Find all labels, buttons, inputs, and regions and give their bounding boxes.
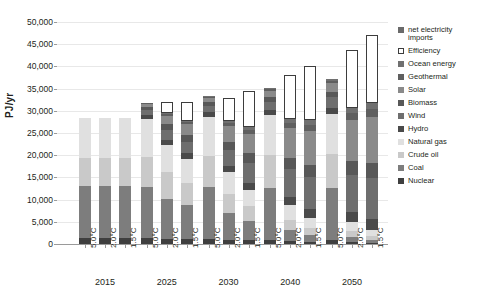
- bar-segment-biomass: [223, 142, 235, 150]
- bar-segment-solar: [366, 117, 378, 163]
- bar-segment-geothermal: [346, 113, 358, 120]
- y-axis-tick-label: 5,000: [3, 218, 53, 226]
- y-axis-tick: [54, 22, 57, 23]
- bar-2015-2-0C[interactable]: [99, 118, 111, 245]
- legend-item-coal[interactable]: Coal: [398, 164, 478, 172]
- y-axis-tick: [54, 155, 57, 156]
- bar-segment-wind: [284, 169, 296, 197]
- legend-item-crude-oil[interactable]: Crude oil: [398, 151, 478, 159]
- legend-item-label: Solar: [408, 86, 426, 94]
- x-axis-scenario-label: 2.0°C: [233, 227, 242, 248]
- legend-item-nuclear[interactable]: Nuclear: [398, 177, 478, 185]
- y-axis-tick: [54, 133, 57, 134]
- y-axis-tick: [54, 66, 57, 67]
- legend-item-label: Biomass: [408, 99, 437, 107]
- bar-2030-1-5C[interactable]: [243, 91, 255, 244]
- x-axis-scenario-label: 5.0°C: [89, 227, 98, 248]
- legend-item-hydro[interactable]: Hydro: [398, 125, 478, 133]
- x-axis-tick: [85, 244, 86, 248]
- y-axis-tick: [54, 89, 57, 90]
- y-axis-tick: [54, 177, 57, 178]
- bar-segment-wind: [264, 102, 276, 110]
- legend-item-efficiency[interactable]: Efficiency: [398, 47, 478, 55]
- bar-segment-wind: [366, 178, 378, 219]
- bar-segment-natural-gas: [119, 118, 131, 158]
- x-axis-scenario-label: 1.5°C: [376, 227, 385, 248]
- plot-area: 50,00045,00040,00035,00030,00025,00020,0…: [57, 22, 388, 244]
- legend-item-natural-gas[interactable]: Natural gas: [398, 138, 478, 146]
- chart-legend: net electricity importsEfficiencyOcean e…: [398, 26, 478, 190]
- x-axis-tick: [352, 244, 353, 248]
- legend-item-ocean-energy[interactable]: Ocean energy: [398, 60, 478, 68]
- bar-segment-efficiency: [223, 98, 235, 121]
- gridline: [57, 44, 388, 45]
- legend-swatch-nuclear-icon: [398, 178, 404, 184]
- bar-segment-solar: [326, 83, 338, 91]
- bar-segment-solar: [243, 134, 255, 154]
- bar-2050-5-0C[interactable]: [326, 79, 338, 244]
- legend-item-label: Natural gas: [408, 138, 447, 146]
- bar-segment-efficiency: [284, 75, 296, 119]
- y-axis-tick-label: 25,000: [3, 129, 53, 137]
- bar-2025-1-5C[interactable]: [181, 102, 193, 244]
- bar-segment-geothermal: [366, 109, 378, 117]
- bar-segment-natural-gas: [326, 114, 338, 154]
- legend-item-label: Ocean energy: [408, 60, 456, 68]
- y-axis-tick-label: 0: [3, 240, 53, 248]
- y-axis-tick: [54, 200, 57, 201]
- bar-segment-solar: [181, 124, 193, 135]
- legend-item-biomass[interactable]: Biomass: [398, 99, 478, 107]
- bar-2025-2-0C[interactable]: [161, 102, 173, 244]
- bar-segment-natural-gas: [161, 145, 173, 173]
- bar-2040-1-5C[interactable]: [304, 66, 316, 244]
- x-axis-scenario-label: 2.0°C: [294, 227, 303, 248]
- x-axis-scenario-label: 5.0°C: [336, 227, 345, 248]
- bar-segment-crude-oil: [161, 172, 173, 199]
- x-axis-scenario-label: 1.5°C: [314, 227, 323, 248]
- bar-2050-1-5C[interactable]: [366, 35, 378, 244]
- bar-segment-crude-oil: [181, 183, 193, 205]
- gridline: [57, 66, 388, 67]
- bar-2030-5-0C[interactable]: [203, 96, 215, 244]
- stacked-bar-chart: PJ/yr 50,00045,00040,00035,00030,00025,0…: [0, 0, 480, 297]
- bar-segment-wind: [304, 177, 316, 208]
- legend-item-net-electricity-imports[interactable]: net electricity imports: [398, 26, 478, 43]
- bar-2015-5-0C[interactable]: [79, 118, 91, 245]
- y-axis-tick: [54, 244, 57, 245]
- bar-segment-natural-gas: [243, 190, 255, 206]
- y-axis-tick-label: 15,000: [3, 173, 53, 181]
- bar-2050-2-0C[interactable]: [346, 50, 358, 244]
- x-axis-scenario-label: 5.0°C: [151, 227, 160, 248]
- legend-item-geothermal[interactable]: Geothermal: [398, 73, 478, 81]
- bar-2040-2-0C[interactable]: [284, 75, 296, 244]
- bar-segment-wind: [223, 150, 235, 166]
- bar-segment-biomass: [181, 135, 193, 142]
- bar-segment-crude-oil: [223, 194, 235, 213]
- x-axis-scenario-label: 2.0°C: [109, 227, 118, 248]
- y-axis-tick-label: 10,000: [3, 196, 53, 204]
- bar-segment-natural-gas: [284, 205, 296, 220]
- bar-segment-crude-oil: [264, 155, 276, 187]
- y-axis-tick-label: 50,000: [3, 18, 53, 26]
- bar-segment-wind: [181, 142, 193, 154]
- bar-2015-1-5C[interactable]: [119, 118, 131, 245]
- gridline: [57, 22, 388, 23]
- x-axis-tick: [372, 244, 373, 248]
- bar-2030-2-0C[interactable]: [223, 98, 235, 244]
- legend-swatch-solar-icon: [398, 87, 404, 93]
- x-axis-scenario-label: 2.0°C: [171, 227, 180, 248]
- x-axis-group-label-2050: 2050: [316, 277, 388, 287]
- x-axis-tick: [249, 244, 250, 248]
- bar-2040-5-0C[interactable]: [264, 88, 276, 244]
- bar-segment-natural-gas: [223, 172, 235, 194]
- legend-item-solar[interactable]: Solar: [398, 86, 478, 94]
- y-axis-tick-label: 35,000: [3, 85, 53, 93]
- bar-2025-5-0C[interactable]: [141, 103, 153, 244]
- bar-segment-wind: [346, 175, 358, 212]
- legend-item-label: Nuclear: [408, 177, 434, 185]
- y-axis-tick-label: 20,000: [3, 151, 53, 159]
- x-axis-tick: [270, 244, 271, 248]
- x-axis-tick: [332, 244, 333, 248]
- legend-item-wind[interactable]: Wind: [398, 112, 478, 120]
- legend-item-label: Coal: [408, 164, 424, 172]
